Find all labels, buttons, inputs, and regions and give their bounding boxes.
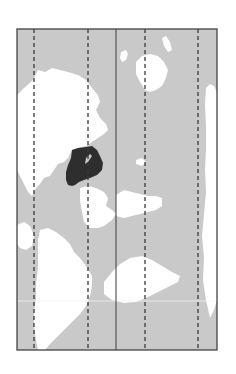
world-map <box>0 0 236 374</box>
